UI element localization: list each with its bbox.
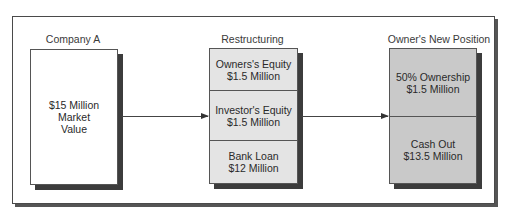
restructuring-title: Restructuring: [209, 33, 296, 45]
new-position-box: 50% Ownership $1.5 Million Cash Out $13.…: [389, 48, 477, 184]
ownership-segment: 50% Ownership $1.5 Million: [390, 49, 476, 116]
investors-equity-value: $1.5 Million: [227, 116, 280, 128]
owners-equity-value: $1.5 Million: [227, 70, 280, 82]
bank-loan-label: Bank Loan: [228, 150, 278, 162]
company-a-box: $15 Million Market Value: [30, 49, 118, 185]
new-position-title: Owner's New Position: [378, 33, 500, 45]
cash-out-label: Cash Out: [411, 138, 455, 150]
company-a-line-2: Market: [58, 111, 90, 123]
arrow-to-new-position: [302, 116, 388, 117]
ownership-label: 50% Ownership: [396, 71, 470, 83]
bank-loan-segment: Bank Loan $12 Million: [210, 140, 297, 183]
restructuring-box: Owners's Equity $1.5 Million Investor's …: [209, 48, 298, 184]
arrow-to-restructuring: [122, 116, 208, 117]
company-a-line-3: Value: [61, 123, 87, 135]
company-a-title: Company A: [30, 33, 116, 45]
cash-out-segment: Cash Out $13.5 Million: [390, 116, 476, 183]
company-a-line-1: $15 Million: [49, 99, 99, 111]
ownership-value: $1.5 Million: [406, 83, 459, 95]
owners-equity-segment: Owners's Equity $1.5 Million: [210, 49, 297, 90]
company-a-value: $15 Million Market Value: [31, 50, 117, 184]
investors-equity-label: Investor's Equity: [215, 104, 292, 116]
investors-equity-segment: Investor's Equity $1.5 Million: [210, 90, 297, 141]
owners-equity-label: Owners's Equity: [216, 58, 292, 70]
cash-out-value: $13.5 Million: [404, 150, 463, 162]
bank-loan-value: $12 Million: [228, 162, 278, 174]
